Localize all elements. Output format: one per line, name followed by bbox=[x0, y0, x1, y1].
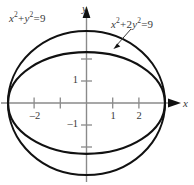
plot-canvas bbox=[0, 0, 194, 185]
graph-figure: x2+y2=9 x2+2y2=9 x y –2 1 2 1 –1 bbox=[0, 0, 194, 185]
equation-label-ellipse: x2+2y2=9 bbox=[111, 19, 153, 30]
y-axis-label: y bbox=[82, 3, 87, 14]
x-tick-label-2: 2 bbox=[133, 111, 145, 122]
x-axis-arrowhead bbox=[168, 99, 181, 108]
y-tick-label-neg1: –1 bbox=[60, 119, 78, 130]
x-tick-label-neg2: –2 bbox=[27, 111, 43, 122]
circle-eq-rhs: 9 bbox=[40, 12, 46, 24]
ellipse-leader-arrowhead bbox=[113, 44, 120, 49]
ellipse-eq-rhs: 9 bbox=[148, 18, 154, 30]
equation-label-circle: x2+y2=9 bbox=[9, 13, 46, 24]
y-tick-label-1: 1 bbox=[66, 75, 78, 86]
x-axis-label: x bbox=[183, 98, 188, 109]
x-tick-label-1: 1 bbox=[107, 111, 119, 122]
